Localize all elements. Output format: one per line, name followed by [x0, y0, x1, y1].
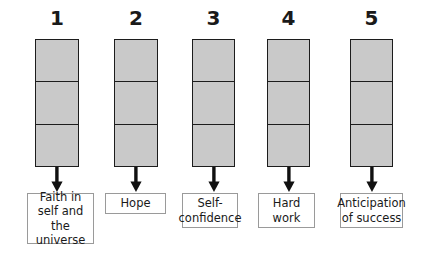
column-number-label: 5: [350, 6, 393, 30]
outcome-label-text: Anticipation of success: [337, 196, 406, 225]
segmented-bar: [350, 39, 393, 167]
flow-column-5: 5Anticipation of success: [0, 0, 431, 261]
outcome-label-box: Anticipation of success: [340, 193, 403, 228]
bar-segment: [351, 40, 392, 81]
bar-segment: [351, 81, 392, 123]
flow-diagram: 1Faith in self and the universe2Hope3Sel…: [0, 0, 431, 261]
down-arrow-icon: [365, 167, 379, 193]
bar-segment: [351, 124, 392, 166]
